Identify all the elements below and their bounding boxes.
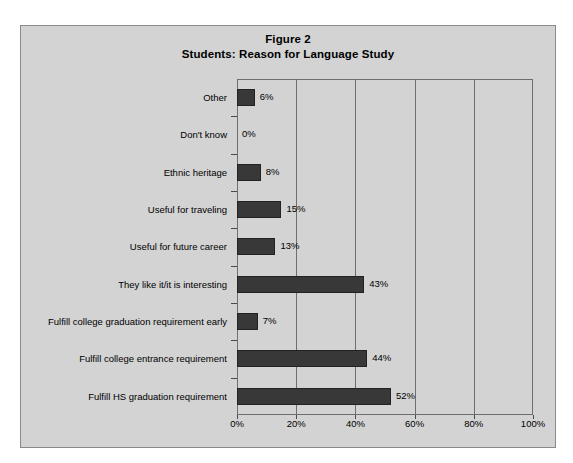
- bar-row: 7%: [237, 303, 533, 340]
- x-axis-tick-label: 40%: [346, 418, 365, 429]
- x-axis-tick: [355, 415, 356, 419]
- x-axis-tick: [415, 415, 416, 419]
- bar-row: 8%: [237, 154, 533, 191]
- category-label: Fulfill college entrance requirement: [79, 340, 227, 377]
- x-axis-tick: [533, 415, 534, 419]
- category-label: They like it/it is interesting: [118, 266, 227, 303]
- x-axis-tick: [474, 415, 475, 419]
- x-axis-tick-label: 0%: [230, 418, 244, 429]
- x-axis-tick-label: 60%: [405, 418, 424, 429]
- category-label: Ethnic heritage: [164, 154, 227, 191]
- category-label: Useful for traveling: [148, 191, 227, 228]
- value-axis-labels: 0%20%40%60%80%100%: [237, 418, 533, 434]
- chart-title: Figure 2 Students: Reason for Language S…: [21, 32, 555, 62]
- x-axis-tick-label: 100%: [521, 418, 545, 429]
- y-axis-tick: [231, 154, 237, 155]
- bar: [237, 276, 364, 293]
- bar: [237, 388, 391, 405]
- y-axis-tick: [231, 228, 237, 229]
- bar-value-label: 15%: [286, 202, 305, 215]
- bar-value-label: 52%: [396, 389, 415, 402]
- bar-row: 0%: [237, 116, 533, 153]
- x-axis-tick: [237, 415, 238, 419]
- bar: [237, 164, 261, 181]
- bar-value-label: 0%: [242, 127, 256, 140]
- bar-value-label: 8%: [266, 165, 280, 178]
- chart-title-line-2: Students: Reason for Language Study: [21, 47, 555, 62]
- y-axis-tick: [231, 340, 237, 341]
- figure-frame: Figure 2 Students: Reason for Language S…: [20, 25, 556, 448]
- category-label: Fulfill HS graduation requirement: [88, 378, 227, 415]
- bar-row: 44%: [237, 340, 533, 377]
- bar-row: 15%: [237, 191, 533, 228]
- x-axis-tick-label: 20%: [287, 418, 306, 429]
- y-axis-tick: [231, 303, 237, 304]
- bar-value-label: 6%: [260, 90, 274, 103]
- bar: [237, 313, 258, 330]
- bar: [237, 201, 281, 218]
- bar-row: 52%: [237, 378, 533, 415]
- bar: [237, 350, 367, 367]
- y-axis-tick: [231, 191, 237, 192]
- bar-value-label: 13%: [280, 239, 299, 252]
- y-axis-tick: [231, 116, 237, 117]
- category-axis-labels: OtherDon't knowEthnic heritageUseful for…: [21, 79, 233, 415]
- category-label: Don't know: [180, 116, 227, 153]
- bar: [237, 238, 275, 255]
- bar-value-label: 44%: [372, 351, 391, 364]
- bar-value-label: 7%: [263, 314, 277, 327]
- bar-value-label: 43%: [369, 277, 388, 290]
- chart-title-line-1: Figure 2: [265, 33, 311, 45]
- y-axis-tick: [231, 378, 237, 379]
- x-axis-tick: [296, 415, 297, 419]
- x-axis-tick-label: 80%: [464, 418, 483, 429]
- y-axis-tick: [231, 266, 237, 267]
- category-label: Useful for future career: [130, 228, 227, 265]
- bar-row: 6%: [237, 79, 533, 116]
- category-label: Fulfill college graduation requirement e…: [48, 303, 227, 340]
- bar-row: 43%: [237, 266, 533, 303]
- bar-row: 13%: [237, 228, 533, 265]
- bar: [237, 89, 255, 106]
- category-label: Other: [203, 79, 227, 116]
- bars-layer: 6%0%8%15%13%43%7%44%52%: [237, 79, 533, 415]
